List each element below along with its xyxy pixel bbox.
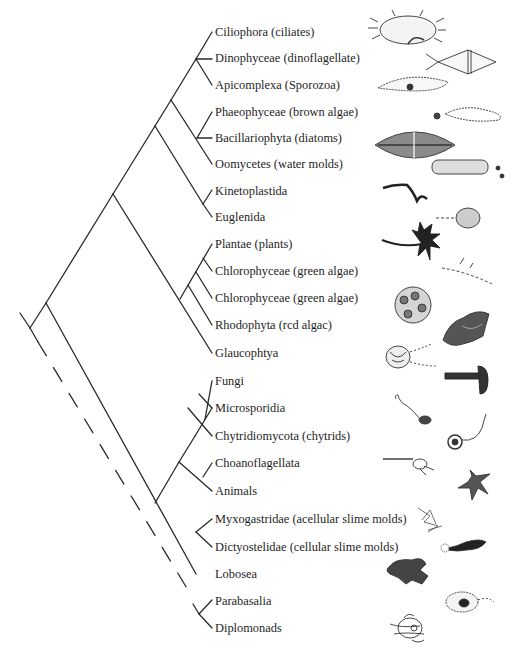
diatom-illustration: [375, 132, 455, 158]
volvox-illustration: [395, 287, 431, 323]
brown-alga-illustration: [434, 108, 500, 121]
organism-illustrations: [0, 0, 514, 656]
trypanosome-illustration: [383, 185, 427, 201]
giardia-illustration: [390, 614, 424, 642]
green-alga-illustration: [442, 258, 492, 284]
euglena-illustration: [436, 208, 480, 228]
glaucophyte-illustration: [386, 344, 436, 368]
mushroom-illustration: [445, 366, 488, 394]
starfish-illustration: [458, 470, 490, 500]
chytrid-illustration: [448, 414, 486, 449]
amoeba-illustration: [387, 559, 428, 584]
ciliate-illustration: [368, 10, 446, 44]
red-alga-illustration: [443, 312, 489, 346]
sporozoan-illustration: [378, 77, 448, 91]
choanoflagellate-illustration: [383, 459, 434, 475]
microsporidian-illustration: [395, 395, 431, 424]
dinoflagellate-illustration: [426, 50, 496, 74]
water-mold-illustration: [432, 160, 504, 178]
dictyostelium-illustration: [441, 540, 486, 552]
plant-illustration: [382, 222, 440, 260]
slime-mold-plasmodium-illustration: [418, 508, 442, 532]
trichomonad-illustration: [446, 592, 494, 612]
